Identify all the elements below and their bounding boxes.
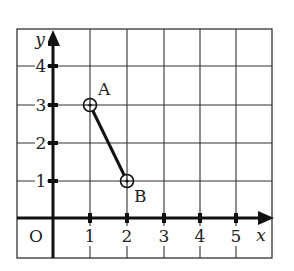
y-tick-label-1: 1: [36, 171, 47, 191]
y-tick-label-4: 4: [36, 56, 47, 76]
y-axis-label: y: [34, 29, 45, 49]
x-tick-label-4: 4: [195, 226, 206, 246]
x-tick-label-2: 2: [122, 226, 133, 246]
x-axis-label: x: [256, 225, 266, 245]
point-a-label: A: [97, 79, 111, 99]
grid-horizontal-lines: [17, 66, 272, 181]
y-tick-label-3: 3: [36, 95, 47, 115]
coordinate-diagram: 1 2 3 4 5 1 2 3 4 O x y A B: [0, 0, 294, 271]
y-axis-arrow-icon: [46, 30, 60, 46]
y-tick-label-2: 2: [36, 133, 47, 153]
origin-label: O: [29, 226, 43, 246]
x-tick-label-1: 1: [85, 226, 96, 246]
x-tick-label-5: 5: [231, 226, 242, 246]
x-tick-label-3: 3: [159, 226, 170, 246]
point-b-label: B: [134, 186, 147, 206]
point-b: [121, 175, 134, 188]
point-a: [84, 99, 97, 112]
